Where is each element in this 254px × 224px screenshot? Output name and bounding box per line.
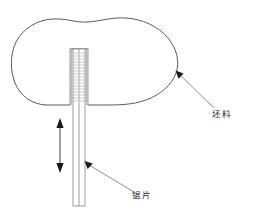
sawblade-leader-line [89,165,134,192]
blank-workpiece-outline [11,18,177,105]
figure-canvas: 坯料 锯片 [0,0,254,224]
blank-leader-line [180,75,214,108]
label-saw-blade: 锯片 [132,191,151,200]
sawblade-leader-arrowhead [85,161,93,169]
sawblade-leader-group [85,161,135,192]
motion-arrow-head-down [56,163,63,173]
label-blank: 坯料 [212,110,231,119]
blank-outline-path [11,18,177,105]
reciprocating-motion-arrow [56,118,63,173]
blank-leader-group [176,71,215,109]
saw-blade-body [73,49,85,206]
motion-arrow-head-up [56,118,63,128]
